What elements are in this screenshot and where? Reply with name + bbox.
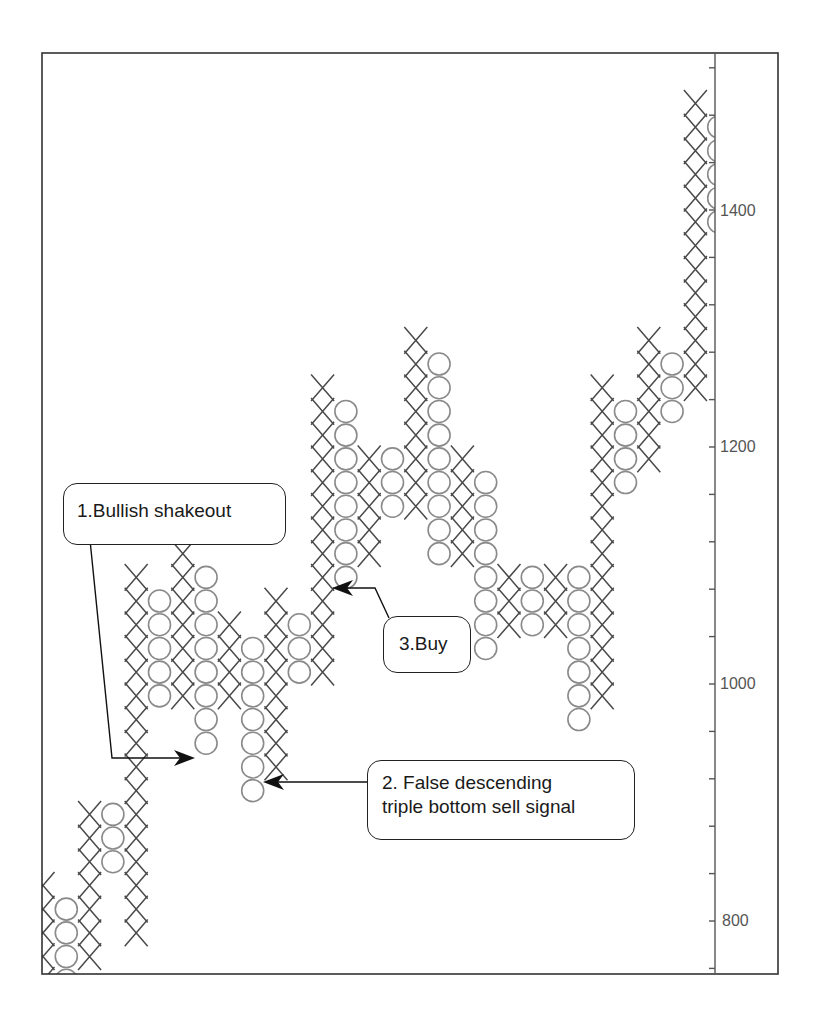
x-mark xyxy=(265,635,288,662)
callout-buy: 3.Buy xyxy=(383,616,471,673)
x-mark xyxy=(125,920,148,947)
x-mark xyxy=(265,706,288,733)
x-mark xyxy=(591,588,614,615)
x-mark xyxy=(684,351,707,378)
o-mark xyxy=(615,448,637,470)
o-mark xyxy=(195,637,217,659)
o-mark xyxy=(708,116,730,138)
x-mark xyxy=(78,848,101,875)
x-mark xyxy=(591,683,614,710)
x-mark xyxy=(125,730,148,757)
x-mark xyxy=(171,659,194,686)
y-axis-ticks xyxy=(709,68,715,969)
x-mark xyxy=(265,611,288,638)
x-mark xyxy=(637,374,660,401)
x-mark xyxy=(591,611,614,638)
x-mark xyxy=(684,374,707,401)
x-mark xyxy=(311,659,334,686)
x-mark xyxy=(637,327,660,354)
x-mark xyxy=(265,683,288,710)
o-mark xyxy=(102,851,124,873)
o-mark xyxy=(568,685,590,707)
x-mark xyxy=(591,398,614,425)
x-mark xyxy=(591,422,614,449)
o-mark xyxy=(55,898,77,920)
o-mark xyxy=(568,661,590,683)
x-mark xyxy=(404,469,427,496)
o-mark xyxy=(475,566,497,588)
callout-false-signal: 2. False descending triple bottom sell s… xyxy=(367,760,635,840)
o-mark xyxy=(428,424,450,446)
o-mark xyxy=(475,614,497,636)
o-mark xyxy=(708,140,730,162)
pnf-marks xyxy=(32,90,730,1015)
x-mark xyxy=(311,493,334,520)
o-mark xyxy=(242,756,264,778)
x-mark xyxy=(125,635,148,662)
x-mark xyxy=(498,564,521,591)
o-mark xyxy=(195,590,217,612)
x-mark xyxy=(78,920,101,947)
callout-false-signal-line2: triple bottom sell signal xyxy=(382,795,634,819)
arrow-bullish-shakeout xyxy=(90,540,188,758)
o-mark xyxy=(568,566,590,588)
x-mark xyxy=(125,659,148,686)
o-mark xyxy=(242,732,264,754)
x-mark xyxy=(32,943,55,970)
o-mark xyxy=(521,590,543,612)
x-mark xyxy=(311,422,334,449)
x-mark xyxy=(684,185,707,212)
o-mark xyxy=(335,448,357,470)
o-mark xyxy=(521,566,543,588)
callout-bullish-shakeout: 1.Bullish shakeout xyxy=(63,483,286,545)
x-mark xyxy=(451,493,474,520)
x-mark xyxy=(311,635,334,662)
x-mark xyxy=(125,706,148,733)
x-mark xyxy=(591,446,614,473)
x-mark xyxy=(591,540,614,567)
o-mark xyxy=(242,685,264,707)
x-mark xyxy=(684,256,707,283)
o-mark xyxy=(242,780,264,802)
callout-false-signal-line1: 2. False descending xyxy=(382,771,634,795)
x-mark xyxy=(125,801,148,828)
x-mark xyxy=(218,659,241,686)
o-mark xyxy=(382,448,404,470)
x-mark xyxy=(125,777,148,804)
x-mark xyxy=(637,422,660,449)
o-mark xyxy=(382,472,404,494)
x-mark xyxy=(684,90,707,117)
o-mark xyxy=(149,590,171,612)
o-mark xyxy=(195,732,217,754)
o-mark xyxy=(568,614,590,636)
y-axis-label-1200: 1200 xyxy=(720,438,756,456)
callout-bullish-shakeout-text: 1.Bullish shakeout xyxy=(77,500,231,521)
x-mark xyxy=(404,374,427,401)
x-mark xyxy=(451,517,474,544)
o-mark xyxy=(335,543,357,565)
o-mark xyxy=(55,946,77,968)
o-mark xyxy=(428,400,450,422)
x-mark xyxy=(544,564,567,591)
o-mark xyxy=(568,637,590,659)
o-mark xyxy=(195,685,217,707)
x-mark xyxy=(265,730,288,757)
x-mark xyxy=(591,469,614,496)
callout-buy-text: 3.Buy xyxy=(399,633,448,654)
o-mark xyxy=(475,543,497,565)
o-mark xyxy=(661,377,683,399)
x-mark xyxy=(591,493,614,520)
x-mark xyxy=(358,469,381,496)
x-mark xyxy=(32,896,55,923)
x-mark xyxy=(544,611,567,638)
x-mark xyxy=(498,588,521,615)
y-axis-label-1000: 1000 xyxy=(720,675,756,693)
o-mark xyxy=(149,685,171,707)
o-mark xyxy=(149,614,171,636)
x-mark xyxy=(125,611,148,638)
x-mark xyxy=(358,493,381,520)
x-mark xyxy=(591,517,614,544)
x-mark xyxy=(591,564,614,591)
o-mark xyxy=(521,614,543,636)
x-mark xyxy=(218,683,241,710)
